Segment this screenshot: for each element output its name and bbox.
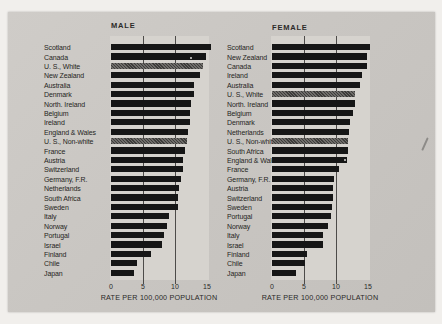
bar-denmark	[111, 91, 194, 97]
category-label-belgium: Belgium	[227, 109, 252, 116]
category-label-japan: Japan	[227, 269, 246, 276]
figure-photo: MALEScotlandCanadaU. S., WhiteNew Zealan…	[8, 12, 435, 312]
bar-canada	[272, 63, 367, 69]
bar-new-zealand	[111, 72, 200, 78]
x-tick-label-0: 0	[101, 283, 121, 290]
category-label-north-ireland: North. Ireland	[227, 100, 268, 107]
bar-portugal	[272, 213, 331, 219]
bar-italy	[111, 213, 169, 219]
category-label-israel: Israel	[227, 241, 244, 248]
bar-denmark	[272, 119, 350, 125]
bar-south-africa	[272, 147, 348, 153]
category-label-south-africa: South Africa	[44, 194, 81, 201]
category-label-norway: Norway	[227, 222, 250, 229]
x-tick-label-15: 15	[358, 283, 378, 290]
bar-switzerland	[111, 166, 183, 172]
bar-ireland	[272, 72, 362, 78]
category-label-norway: Norway	[44, 222, 67, 229]
category-label-israel: Israel	[44, 241, 61, 248]
category-label-netherlands: Netherlands	[227, 128, 264, 135]
category-label-australia: Australia	[44, 81, 70, 88]
category-label-north-ireland: North. Ireland	[44, 100, 85, 107]
bar-chile	[111, 260, 137, 266]
bar-australia	[111, 82, 194, 88]
bar-england-wales	[272, 157, 347, 163]
bar-belgium	[272, 110, 353, 116]
x-axis-label: RATE PER 100,000 POPULATION	[79, 293, 239, 302]
x-tick-label-15: 15	[197, 283, 217, 290]
bar-scotland	[111, 44, 211, 50]
bar-u-s-non-white	[272, 138, 348, 144]
bar-austria	[272, 185, 333, 191]
category-label-austria: Austria	[227, 185, 248, 192]
bar-netherlands	[272, 129, 349, 135]
category-label-belgium: Belgium	[44, 109, 69, 116]
bar-norway	[111, 223, 167, 229]
category-label-portugal: Portugal	[227, 213, 252, 220]
bar-sweden	[272, 204, 332, 210]
category-label-australia: Australia	[227, 81, 253, 88]
category-label-austria: Austria	[44, 156, 65, 163]
bar-south-africa	[111, 194, 178, 200]
chart-title-female: FEMALE	[272, 23, 308, 32]
bar-norway	[272, 223, 328, 229]
bar-ireland	[111, 119, 190, 125]
category-label-u-s-non-white: U. S., Non-white	[227, 138, 276, 145]
bar-finland	[111, 251, 151, 257]
category-label-netherlands: Netherlands	[44, 185, 81, 192]
bar-france	[272, 166, 339, 172]
bar-england-wales	[111, 129, 188, 135]
x-tick-label-5: 5	[294, 283, 314, 290]
category-label-finland: Finland	[227, 250, 249, 257]
bar-germany-f-r	[111, 176, 181, 182]
bar-scotland	[272, 44, 370, 50]
bar-new-zealand	[272, 53, 367, 59]
category-label-canada: Canada	[227, 62, 251, 69]
bar-u-s-non-white	[111, 138, 187, 144]
scanned-figure-page: MALEScotlandCanadaU. S., WhiteNew Zealan…	[0, 0, 442, 324]
bar-italy	[272, 232, 323, 238]
category-label-ireland: Ireland	[227, 72, 248, 79]
category-label-scotland: Scotland	[227, 44, 253, 51]
category-label-u-s-non-white: U. S., Non-white	[44, 138, 93, 145]
category-label-italy: Italy	[227, 232, 239, 239]
bar-chile	[272, 260, 305, 266]
bar-france	[111, 147, 185, 153]
category-label-portugal: Portugal	[44, 232, 69, 239]
category-label-sweden: Sweden	[227, 203, 252, 210]
bar-netherlands	[111, 185, 179, 191]
bar-finland	[272, 251, 307, 257]
category-label-denmark: Denmark	[227, 119, 255, 126]
x-axis-label: RATE PER 100,000 POPULATION	[240, 293, 400, 302]
bar-u-s-white	[272, 91, 355, 97]
x-tick-label-0: 0	[262, 283, 282, 290]
category-label-france: France	[227, 166, 248, 173]
category-label-sweden: Sweden	[44, 203, 69, 210]
bar-japan	[111, 270, 134, 276]
bar-portugal	[111, 232, 164, 238]
bar-belgium	[111, 110, 190, 116]
category-label-u-s-white: U. S., White	[44, 62, 80, 69]
category-label-chile: Chile	[227, 260, 242, 267]
category-label-new-zealand: New Zealand	[227, 53, 267, 60]
category-label-denmark: Denmark	[44, 91, 72, 98]
x-tick-label-10: 10	[165, 283, 185, 290]
bar-u-s-white	[111, 63, 203, 69]
bar-north-ireland	[272, 100, 355, 106]
category-label-chile: Chile	[44, 260, 59, 267]
bar-germany-f-r	[272, 176, 334, 182]
category-label-finland: Finland	[44, 250, 66, 257]
category-label-england-wales: England & Wales	[44, 128, 96, 135]
pen-slash-mark	[421, 137, 428, 150]
bar-japan	[272, 270, 296, 276]
bar-australia	[272, 82, 360, 88]
bar-israel	[111, 241, 162, 247]
bar-sweden	[111, 204, 178, 210]
category-label-new-zealand: New Zealand	[44, 72, 84, 79]
bar-switzerland	[272, 194, 333, 200]
category-label-canada: Canada	[44, 53, 68, 60]
category-label-germany-f-r: Germany, F.R.	[227, 175, 270, 182]
category-label-ireland: Ireland	[44, 119, 65, 126]
scan-speck	[190, 57, 192, 59]
x-tick-label-10: 10	[326, 283, 346, 290]
